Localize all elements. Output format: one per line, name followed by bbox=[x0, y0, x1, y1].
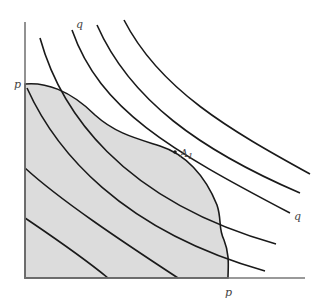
curve-q-top-label: q bbox=[76, 18, 83, 31]
y-axis-p-label: p bbox=[14, 78, 21, 91]
curve-q-right-label: q bbox=[294, 210, 301, 223]
tangency-label-main: A bbox=[179, 147, 188, 160]
diagram-canvas: p p q q A1 bbox=[0, 0, 326, 303]
tangency-label: A1 bbox=[179, 147, 193, 161]
x-axis-p-label: p bbox=[225, 286, 232, 299]
tangency-point-marker bbox=[173, 150, 177, 154]
tangency-label-subscript: 1 bbox=[188, 152, 193, 161]
production-possibility-region bbox=[25, 84, 228, 278]
